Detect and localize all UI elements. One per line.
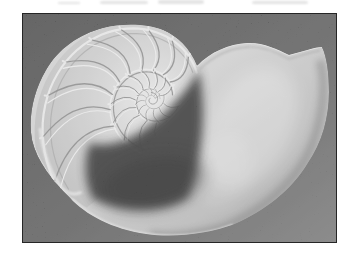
- photo-halftone-overlay: [22, 13, 337, 243]
- scanned-page: [0, 0, 345, 270]
- photo-area: [22, 0, 337, 243]
- nautilus-photograph: [0, 0, 345, 270]
